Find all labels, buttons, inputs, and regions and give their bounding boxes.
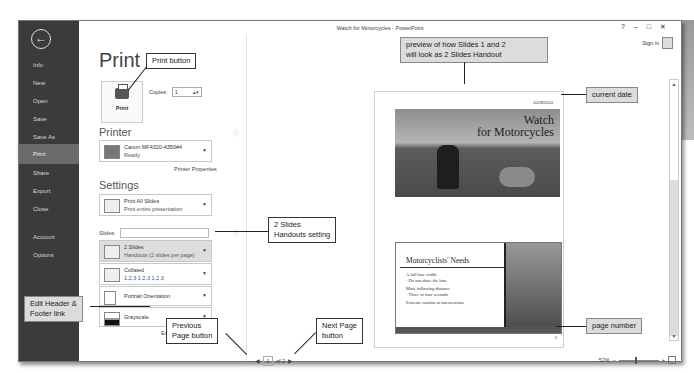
sidebar-item-account[interactable]: Account: [19, 229, 79, 246]
cartoon-car-image: [499, 167, 535, 187]
chevron-down-icon: ▼: [202, 247, 207, 253]
sidebar-item-share[interactable]: Share: [19, 165, 79, 182]
callout-preview: preview of how Slides 1 and 2will look a…: [400, 37, 548, 63]
orientation-dropdown[interactable]: Portrait Orientation ▼: [99, 286, 212, 306]
sidebar-item-export[interactable]: Export: [19, 183, 79, 200]
chevron-down-icon: ▼: [202, 292, 207, 298]
layout-subtitle: Handouts (2 slides per page): [124, 252, 195, 258]
zoom-out-button[interactable]: –: [613, 357, 616, 363]
info-icon[interactable]: ⓘ: [233, 228, 239, 237]
info-icon[interactable]: ⓘ: [233, 128, 239, 137]
zoom-to-page-icon[interactable]: [668, 356, 676, 364]
callout-arrow: [556, 326, 586, 327]
printer-dropdown[interactable]: Canon MF4320-4350#4 Ready ▼: [99, 140, 212, 162]
portrait-page-icon: [104, 291, 116, 305]
slide-2-bullet: More following distance: [406, 286, 450, 291]
copies-stepper[interactable]: 1▴▾: [172, 87, 202, 97]
print-range-subtitle: Print entire presentation: [124, 206, 182, 212]
minimize-icon[interactable]: –: [634, 23, 647, 30]
scroll-down-icon[interactable]: ▼: [670, 332, 678, 340]
slides-label: Slides:: [99, 230, 116, 236]
printer-device-icon: [104, 145, 120, 159]
powerpoint-window: ← Info New Open Save Save As Print Share…: [18, 20, 682, 362]
printer-status: Ready: [124, 152, 140, 158]
callout-current-date: current date: [586, 87, 638, 103]
callout-next-page-line1: Next Page: [322, 321, 357, 330]
slide-1-title-line2: for Motorcycles: [477, 125, 554, 139]
page-count: of 2: [276, 358, 285, 364]
vertical-scrollbar[interactable]: ▲ ▼: [669, 79, 679, 341]
callout-previous-page: PreviousPage button: [166, 318, 218, 344]
zoom-slider[interactable]: [619, 360, 659, 361]
printer-heading: Printer: [99, 126, 131, 138]
slide-2-thumbnail: Motorcyclists' Needs A full lane width ·…: [395, 242, 562, 334]
grayscale-icon: [104, 312, 120, 326]
next-page-button[interactable]: ▶: [288, 358, 293, 364]
slide-footer-bar: [396, 327, 561, 333]
collated-icon: [104, 268, 120, 282]
callout-arrow: [464, 62, 465, 84]
collation-title: Collated: [124, 267, 144, 273]
sidebar-item-open[interactable]: Open: [19, 93, 79, 110]
scroll-up-icon[interactable]: ▲: [670, 80, 678, 88]
callout-edit-header-line2: Footer link: [30, 309, 65, 318]
chevron-down-icon: ▼: [202, 201, 207, 207]
slide-1-title: Watchfor Motorcycles: [477, 114, 554, 138]
callout-next-page: Next Pagebutton: [316, 318, 363, 344]
copies-value[interactable]: 1: [175, 89, 178, 95]
sidebar-item-info[interactable]: Info: [19, 57, 79, 74]
callout-arrow: [561, 94, 586, 95]
slide-2-title: Motorcyclists' Needs: [406, 256, 469, 265]
print-range-title: Print All Slides: [124, 198, 159, 204]
handout-layout-icon: [104, 245, 120, 259]
slides-range-icon: [104, 199, 120, 213]
printer-name: Canon MF4320-4350#4: [124, 144, 182, 150]
sidebar-item-options[interactable]: Options: [19, 247, 79, 264]
callout-next-page-line2: button: [322, 331, 343, 340]
chevron-down-icon: ▼: [202, 147, 207, 153]
motorcycle-rider-image: [437, 145, 459, 189]
slide-2-bullet: · Do not share the lane: [406, 278, 447, 283]
current-page-input[interactable]: 1: [263, 356, 273, 366]
callout-edit-header: Edit Header &Footer link: [24, 296, 83, 322]
collation-dropdown[interactable]: Collated 1,2,3 1,2,3 1,2,3 ▼: [99, 263, 212, 285]
back-arrow-icon[interactable]: ←: [31, 29, 51, 49]
settings-heading: Settings: [99, 179, 139, 191]
copies-label: Copies:: [149, 89, 168, 95]
slide-2-bullet: Extreme caution at intersections: [406, 300, 464, 305]
printer-properties-link[interactable]: Printer Properties: [174, 166, 217, 172]
collation-subtitle: 1,2,3 1,2,3 1,2,3: [124, 275, 164, 281]
sidebar-item-print[interactable]: Print: [19, 144, 79, 164]
print-button[interactable]: Print: [101, 81, 143, 123]
restore-icon[interactable]: □: [647, 23, 660, 30]
close-icon[interactable]: ✕: [660, 23, 675, 30]
sidebar-item-close[interactable]: Close: [19, 201, 79, 218]
print-settings-panel: Print Print Copies: 1▴▾ Printer ⓘ Canon …: [79, 21, 246, 361]
sidebar-item-new[interactable]: New: [19, 75, 79, 92]
page-navigator: ◀ 1 of 2 ▶: [255, 356, 293, 366]
slide-1-thumbnail: Watchfor Motorcycles: [395, 109, 560, 197]
window-controls: ?–□✕: [621, 23, 675, 31]
layout-title: 2 Slides: [124, 244, 144, 250]
zoom-in-button[interactable]: +: [662, 357, 665, 363]
slides-input[interactable]: [120, 228, 209, 238]
handouts-layout-dropdown[interactable]: 2 Slides Handouts (2 slides per page) ▼: [99, 240, 212, 262]
window-title: Watch for Motorcycles - PowerPoint: [336, 25, 423, 31]
callout-arrow: [215, 231, 268, 232]
color-title: Grayscale: [124, 314, 149, 320]
chevron-down-icon: ▼: [202, 270, 207, 276]
page-number: 1: [555, 335, 557, 340]
spinner-icon[interactable]: ▴▾: [193, 88, 199, 96]
copies-control: Copies: 1▴▾: [149, 87, 202, 97]
print-range-dropdown[interactable]: Print All Slides Print entire presentati…: [99, 194, 212, 216]
callout-two-slides: 2 SlidesHandouts setting: [268, 217, 336, 243]
slide-2-bullet: A full lane width: [406, 272, 436, 277]
scroll-thumb[interactable]: [670, 180, 678, 336]
zoom-level[interactable]: 52%: [599, 357, 610, 363]
previous-page-button[interactable]: ◀: [255, 358, 260, 364]
callout-arrow: [90, 306, 150, 307]
sidebar-item-save[interactable]: Save: [19, 111, 79, 128]
callout-preview-line2: will look as 2 Slides Handout: [406, 50, 501, 59]
help-icon[interactable]: ?: [621, 23, 634, 30]
backdrop-shadow: [682, 20, 694, 140]
